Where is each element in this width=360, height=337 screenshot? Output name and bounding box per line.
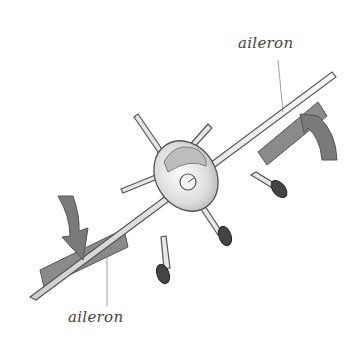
aileron-label-top: aileron: [238, 34, 293, 52]
arrow-down-icon: [58, 196, 88, 260]
leader-line-top: [278, 60, 283, 112]
aileron-label-bottom: aileron: [68, 308, 123, 326]
arrow-up-icon: [300, 114, 337, 160]
airplane-illustration: [0, 0, 360, 337]
aileron-diagram: aileron aileron: [0, 0, 360, 337]
